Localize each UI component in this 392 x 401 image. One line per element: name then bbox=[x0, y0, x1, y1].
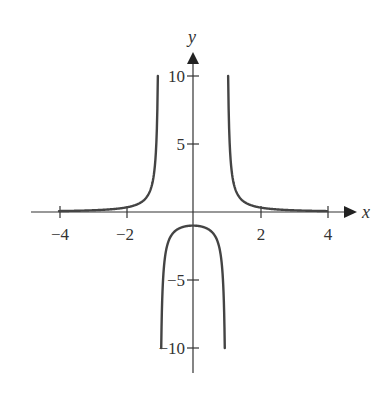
x-tick-label: −2 bbox=[116, 225, 134, 244]
y-axis-arrow-icon bbox=[187, 52, 199, 64]
x-tick-label: −4 bbox=[51, 225, 70, 244]
y-axis-label: y bbox=[186, 27, 196, 47]
x-axis-arrow-icon bbox=[344, 206, 357, 218]
curve-right-branch bbox=[228, 76, 327, 211]
x-tick-label: 4 bbox=[324, 225, 333, 244]
chart-container: −4 −2 2 4 10 5 −5 −10 x y bbox=[0, 0, 392, 401]
curve-left-branch bbox=[59, 76, 158, 211]
x-tick-label: 2 bbox=[257, 225, 266, 244]
x-axis-label: x bbox=[361, 202, 370, 222]
graph-svg: −4 −2 2 4 10 5 −5 −10 x y bbox=[0, 0, 392, 401]
y-tick-label: 5 bbox=[177, 135, 186, 154]
y-tick-label: 10 bbox=[168, 67, 185, 86]
y-tick-label: −5 bbox=[167, 271, 185, 290]
